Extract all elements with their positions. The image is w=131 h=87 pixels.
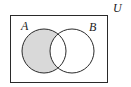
venn-diagram: A B U — [0, 0, 131, 87]
label-a: A — [20, 19, 29, 33]
label-u: U — [113, 1, 123, 15]
label-b: B — [89, 20, 97, 34]
